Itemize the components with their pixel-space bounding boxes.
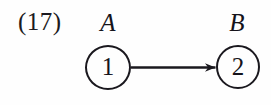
graph-figure: (17) A B 1 2 [0, 0, 271, 105]
node-label-a: A [93, 10, 123, 36]
node-2: 2 [216, 45, 260, 89]
node-2-value: 2 [232, 54, 245, 79]
node-1-value: 1 [102, 54, 115, 79]
node-1: 1 [85, 45, 131, 90]
exercise-number: (17) [18, 9, 62, 35]
node-label-b: B [222, 10, 252, 36]
